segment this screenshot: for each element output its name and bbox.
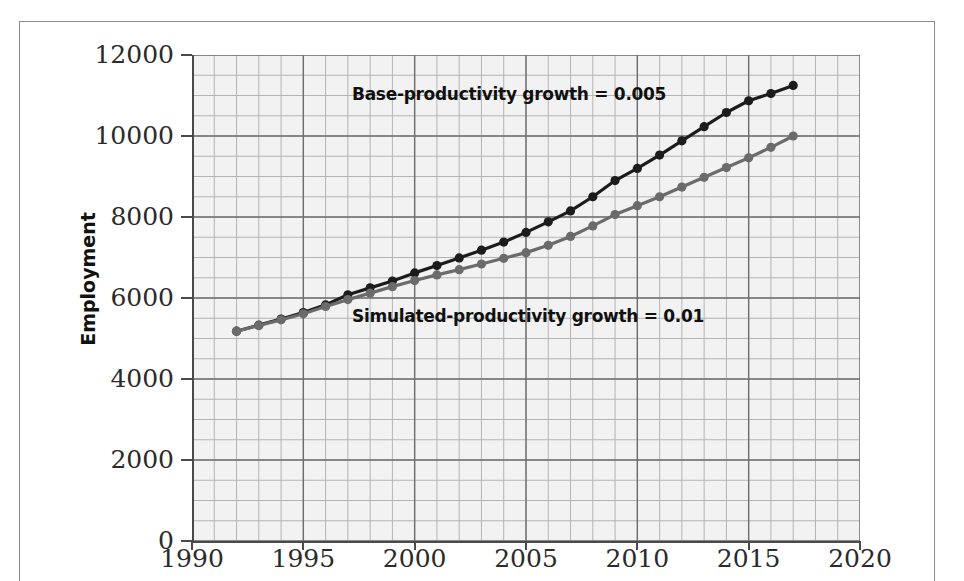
data-point <box>254 321 263 330</box>
data-point <box>499 238 508 247</box>
chart-svg <box>192 55 860 541</box>
data-point <box>722 108 731 117</box>
data-point <box>299 309 308 318</box>
data-point <box>276 315 285 324</box>
annotation-base-productivity: Base-productivity growth = 0.005 <box>352 84 666 104</box>
data-point <box>655 150 664 159</box>
gridlines-major <box>192 55 860 541</box>
series-line-0 <box>237 85 794 331</box>
data-point <box>766 143 775 152</box>
data-point <box>588 192 597 201</box>
data-point <box>677 182 686 191</box>
data-point <box>744 96 753 105</box>
y-tick-mark <box>181 459 192 461</box>
data-point <box>700 122 709 131</box>
data-point <box>677 136 686 145</box>
data-point <box>722 163 731 172</box>
x-tick-mark <box>191 541 193 550</box>
data-point <box>789 81 798 90</box>
data-point <box>321 302 330 311</box>
y-axis-title: Employment <box>77 179 99 379</box>
data-point <box>633 164 642 173</box>
data-point <box>588 221 597 230</box>
plot-area <box>192 55 860 541</box>
data-point <box>343 295 352 304</box>
data-point <box>432 261 441 270</box>
data-point <box>232 327 241 336</box>
data-point <box>766 89 775 98</box>
y-tick-mark <box>181 54 192 56</box>
data-point <box>366 289 375 298</box>
y-tick-mark <box>181 135 192 137</box>
data-point <box>655 192 664 201</box>
data-point <box>455 253 464 262</box>
data-point <box>388 282 397 291</box>
data-point <box>521 248 530 257</box>
data-point <box>544 241 553 250</box>
data-point <box>566 206 575 215</box>
x-tick-mark <box>525 541 527 550</box>
data-point <box>499 254 508 263</box>
y-tick-label: 10000 <box>0 123 174 148</box>
y-tick-mark <box>181 378 192 380</box>
data-point <box>410 276 419 285</box>
y-tick-label: 2000 <box>0 447 174 472</box>
annotation-simulated-productivity: Simulated-productivity growth = 0.01 <box>352 306 704 326</box>
data-point <box>610 176 619 185</box>
data-point <box>544 217 553 226</box>
data-point <box>789 131 798 140</box>
data-point <box>477 246 486 255</box>
x-tick-mark <box>302 541 304 550</box>
x-tick-mark <box>748 541 750 550</box>
x-tick-mark <box>414 541 416 550</box>
series-line-1 <box>237 136 794 331</box>
x-tick-mark <box>636 541 638 550</box>
data-point <box>744 153 753 162</box>
data-point <box>566 232 575 241</box>
data-point <box>700 173 709 182</box>
y-tick-mark <box>181 297 192 299</box>
x-tick-mark <box>859 541 861 550</box>
data-point <box>455 265 464 274</box>
data-point <box>521 228 530 237</box>
data-point <box>477 259 486 268</box>
y-tick-label: 12000 <box>0 42 174 67</box>
data-point <box>633 201 642 210</box>
data-point <box>610 210 619 219</box>
data-point <box>432 270 441 279</box>
y-tick-mark <box>181 216 192 218</box>
y-axis-line <box>192 55 194 542</box>
